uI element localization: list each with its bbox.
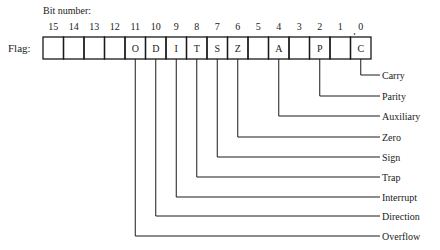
flag-letter: S (214, 43, 220, 54)
leader-line-zero (238, 59, 380, 137)
register-cell (64, 37, 85, 59)
bit-number: 13 (89, 21, 99, 32)
bit-number: 10 (151, 21, 161, 32)
leader-line-sign (217, 59, 380, 157)
flag-label-trap: Trap (382, 172, 401, 183)
flag-letter: P (317, 43, 323, 54)
bit-number-labels: 1514131211109876543210 (48, 21, 363, 32)
flag-letter: Z (235, 43, 241, 54)
register-cell (248, 37, 269, 59)
bit-number: 3 (297, 21, 302, 32)
leader-line-overflow (135, 59, 380, 236)
leader-line-parity (320, 59, 380, 96)
flag-letter: A (275, 43, 283, 54)
leader-line-carry (361, 59, 380, 75)
bit-number: 11 (130, 21, 140, 32)
bit-number: 15 (48, 21, 58, 32)
flag-letter: O (132, 43, 139, 54)
register-cell (84, 37, 105, 59)
bit-number: 9 (174, 21, 179, 32)
flag-label-parity: Parity (382, 91, 406, 102)
register-cell (289, 37, 310, 59)
flag-label-interrupt: Interrupt (382, 192, 417, 203)
leader-line-auxiliary (279, 59, 380, 116)
flag-label-zero: Zero (382, 132, 401, 143)
flag-label-overflow: Overflow (382, 231, 421, 242)
flag-letter: I (175, 43, 178, 54)
bit-number: 4 (276, 21, 281, 32)
register-cells: ODITSZAPC (43, 33, 371, 59)
flag-row-label: Flag: (8, 42, 31, 54)
bit-number: 0 (358, 21, 363, 32)
register-cell (105, 37, 126, 59)
flag-label-auxiliary: Auxiliary (382, 111, 420, 122)
scan-mark (354, 33, 356, 35)
flag-label-sign: Sign (382, 152, 400, 163)
bit-number-heading: Bit number: (43, 5, 91, 16)
bit-number: 1 (338, 21, 343, 32)
bit-number: 8 (194, 21, 199, 32)
flag-label-carry: Carry (382, 70, 405, 81)
flag-letter: D (152, 43, 159, 54)
bit-number: 14 (69, 21, 79, 32)
register-cell (330, 37, 351, 59)
flag-label-direction: Direction (382, 211, 420, 222)
bit-number: 6 (235, 21, 240, 32)
flag-name-labels: CarryParityAuxiliaryZeroSignTrapInterrup… (382, 70, 421, 242)
bit-number: 12 (110, 21, 120, 32)
flags-register-diagram: Bit number: Flag: 1514131211109876543210… (0, 0, 440, 250)
bit-number: 2 (317, 21, 322, 32)
flag-letter: T (194, 43, 200, 54)
flag-letter: C (357, 43, 364, 54)
bit-number: 7 (215, 21, 220, 32)
bit-number: 5 (256, 21, 261, 32)
flag-leader-lines (135, 59, 380, 236)
leader-line-trap (197, 59, 380, 177)
leader-line-interrupt (176, 59, 380, 197)
register-cell (43, 37, 64, 59)
